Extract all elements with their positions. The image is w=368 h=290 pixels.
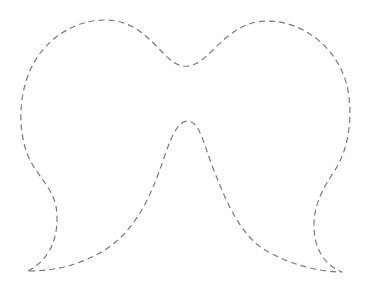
mustache-outline-drawing: [0, 0, 368, 290]
dashed-outline-path: [21, 20, 350, 272]
